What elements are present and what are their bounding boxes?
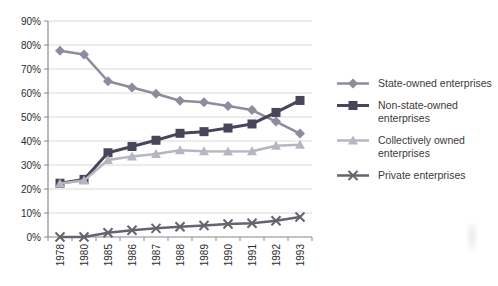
- series-1-point-1992: [272, 108, 281, 117]
- series-0-point-1978: [55, 46, 65, 56]
- y-tick-label: 80%: [21, 40, 41, 51]
- series-0-point-1990: [223, 101, 233, 111]
- x-tick-label: 1989: [199, 244, 210, 267]
- series-1-point-1988: [176, 129, 185, 138]
- x-tick-label: 1990: [223, 244, 234, 267]
- series-0-point-1986: [127, 82, 137, 92]
- legend-item-collectively-owned: Collectively owned enterprises: [336, 134, 496, 160]
- legend-label-state-owned: State-owned enterprises: [378, 77, 496, 90]
- y-tick-label: 10%: [21, 208, 41, 219]
- legend-marker-glyph-1: [349, 101, 358, 110]
- line-chart-plot: 0%10%20%30%40%50%60%70%80%90%19781980198…: [0, 0, 336, 286]
- series-1-point-1986: [128, 142, 137, 151]
- x-tick-label: 1985: [103, 244, 114, 267]
- series-1-point-1991: [248, 119, 257, 128]
- legend-item-state-owned: State-owned enterprises: [336, 77, 496, 90]
- series-0-point-1987: [151, 89, 161, 99]
- y-tick-label: 60%: [21, 88, 41, 99]
- x-tick-label: 1988: [175, 244, 186, 267]
- series-1-point-1989: [200, 127, 209, 136]
- y-tick-label: 20%: [21, 184, 41, 195]
- scan-artifact: [465, 220, 479, 254]
- x-tick-label: 1978: [55, 244, 66, 267]
- private-x-marker-icon: [336, 169, 370, 182]
- series-0-point-1992: [271, 117, 281, 127]
- legend-label-collectively-owned: Collectively owned enterprises: [378, 134, 496, 160]
- legend-marker-glyph-0: [348, 79, 358, 89]
- y-tick-label: 70%: [21, 64, 41, 75]
- legend-item-private: Private enterprises: [336, 169, 496, 182]
- series-0-point-1993: [295, 129, 305, 139]
- y-tick-label: 40%: [21, 136, 41, 147]
- series-0-point-1991: [247, 105, 257, 115]
- x-tick-label: 1993: [295, 244, 306, 267]
- y-tick-label: 0%: [27, 232, 42, 243]
- state-owned-diamond-marker-icon: [336, 77, 370, 90]
- series-1-point-1990: [224, 124, 233, 133]
- x-tick-label: 1992: [271, 244, 282, 267]
- y-tick-label: 90%: [21, 16, 41, 27]
- y-tick-label: 50%: [21, 112, 41, 123]
- series-0-point-1989: [199, 97, 209, 107]
- x-tick-label: 1991: [247, 244, 258, 267]
- chart-page: 0%10%20%30%40%50%60%70%80%90%19781980198…: [0, 0, 498, 286]
- series-1-point-1987: [152, 136, 161, 145]
- series-1-point-1993: [296, 96, 305, 105]
- x-tick-label: 1987: [151, 244, 162, 267]
- series-0-point-1988: [175, 96, 185, 106]
- legend-label-non-state-owned: Non-state-owned enterprises: [378, 99, 496, 125]
- series-line-0: [60, 51, 300, 134]
- legend: State-owned enterprises Non-state-owned …: [336, 77, 496, 182]
- collectively-owned-triangle-marker-icon: [336, 134, 370, 147]
- legend-label-private: Private enterprises: [378, 169, 496, 182]
- y-tick-label: 30%: [21, 160, 41, 171]
- x-tick-label: 1986: [127, 244, 138, 267]
- x-tick-label: 1980: [79, 244, 90, 267]
- non-state-owned-square-marker-icon: [336, 99, 370, 112]
- legend-item-non-state-owned: Non-state-owned enterprises: [336, 99, 496, 125]
